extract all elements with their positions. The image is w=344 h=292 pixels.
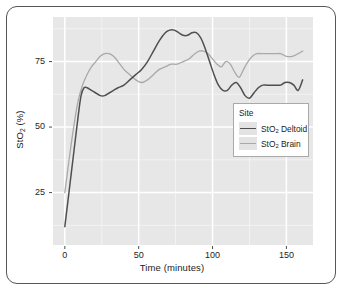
figure-frame: StO2 (%) Time (minutes) 255075050100150 …: [6, 6, 336, 284]
legend-entry-label: StO2 Brain: [261, 139, 301, 149]
legend-entry-1[interactable]: StO2 Deltoid: [239, 121, 303, 136]
legend-entry-label: StO2 Deltoid: [261, 124, 307, 134]
y-tick-label: 25: [15, 187, 45, 197]
legend-entry-list: StO2 DeltoidStO2 Brain: [239, 121, 303, 151]
x-axis-title: Time (minutes): [7, 262, 336, 273]
x-tick-label: 150: [269, 250, 303, 260]
legend-title: Site: [239, 108, 303, 118]
sto2-time-line-chart: StO2 (%) Time (minutes) 255075050100150 …: [7, 7, 336, 284]
legend-line-swatch-icon: [239, 137, 257, 150]
y-tick-label: 75: [15, 56, 45, 66]
x-tick-label: 0: [48, 250, 82, 260]
legend-entry-2[interactable]: StO2 Brain: [239, 136, 303, 151]
legend-line-swatch-icon: [239, 122, 257, 135]
x-tick-label: 100: [196, 250, 230, 260]
legend: Site StO2 DeltoidStO2 Brain: [233, 103, 309, 157]
x-tick-label: 50: [122, 250, 156, 260]
y-tick-label: 50: [15, 121, 45, 131]
